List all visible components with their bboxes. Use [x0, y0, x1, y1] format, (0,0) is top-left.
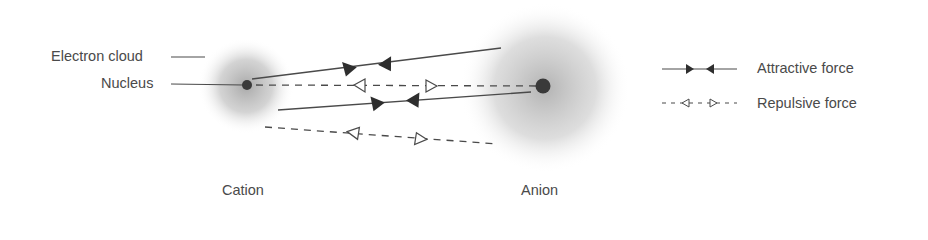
arrow-left-filled-icon: [377, 56, 393, 73]
arrow-left-filled-icon: [405, 93, 420, 109]
arrow-left-open-icon: [682, 99, 689, 107]
arrow-right-filled-icon: [686, 64, 694, 74]
arrow-right-open-icon: [415, 133, 428, 146]
arrow-right-filled-icon: [370, 96, 385, 112]
anion-label: Anion: [521, 183, 558, 198]
arrow-right-filled-icon: [342, 60, 358, 77]
repulsive-force-line-2: [265, 127, 498, 146]
electron-cloud-label: Electron cloud: [51, 49, 143, 64]
arrow-right-open-icon: [426, 80, 437, 92]
arrow-left-open-icon: [347, 127, 360, 140]
legend-attractive-label: Attractive force: [757, 61, 854, 76]
arrow-right-open-icon: [710, 99, 717, 107]
arrow-left-open-icon: [354, 79, 365, 92]
legend-repulsive-symbol: [662, 99, 737, 107]
nucleus-label: Nucleus: [101, 76, 153, 91]
legend-repulsive-label: Repulsive force: [757, 96, 857, 111]
anion-nucleus: [536, 79, 551, 94]
arrow-left-filled-icon: [706, 64, 714, 74]
cation-label: Cation: [222, 183, 264, 198]
cation-nucleus: [242, 80, 252, 90]
legend-attractive-symbol: [662, 64, 737, 74]
